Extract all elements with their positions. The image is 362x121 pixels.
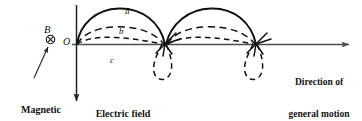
- magnetic-field-caption-line-1: Magnetic: [2, 104, 80, 115]
- direction-caption-line-1: Direction of: [278, 77, 360, 88]
- magnetic-field-into-page-icon: [46, 35, 54, 43]
- curve-b-label: b: [119, 26, 124, 36]
- curve-a: [77, 8, 256, 44]
- magnetic-field-caption: Magnetic field (inward): [2, 82, 80, 121]
- direction-caption-line-2: general motion: [278, 109, 360, 120]
- origin-label: O: [63, 36, 70, 47]
- figure-root: B O a b c Magnetic field (inward) Electr…: [0, 0, 362, 121]
- curve-c-label: c: [110, 55, 114, 65]
- electric-field-caption: Electric field (down): [84, 86, 162, 121]
- magnetic-field-symbol-label: B: [44, 24, 50, 36]
- curve-c: [77, 37, 263, 79]
- direction-caption: Direction of general motion of electrons: [278, 56, 360, 121]
- curve-a-label: a: [125, 6, 130, 16]
- magnetic-field-leader-line: [34, 47, 48, 78]
- electric-field-caption-line-1: Electric field: [84, 108, 162, 119]
